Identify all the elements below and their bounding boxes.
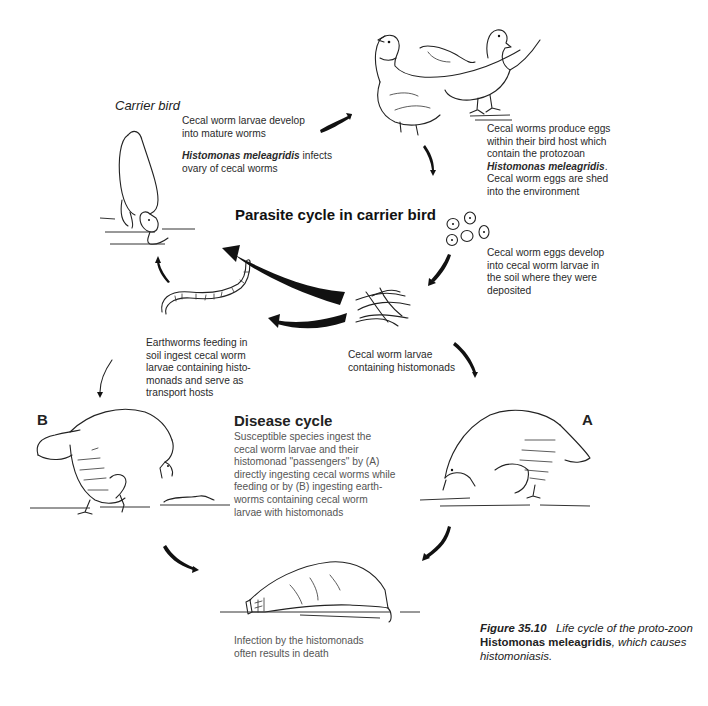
letter-b-label: B [37, 411, 48, 428]
disease-desc-line: worms containing cecal worm [234, 494, 395, 507]
figure-number: Figure 35.10 [480, 622, 546, 634]
earthworms-line: soil ingest cecal worm [146, 350, 251, 363]
earthworms-line: Earthworms feeding in [146, 337, 251, 350]
eggs-develop-line: Cecal worm eggs develop [487, 247, 604, 260]
death-line: often results in death [234, 648, 364, 661]
carrier-hen-illustration [100, 131, 195, 244]
disease-cycle-title: Disease cycle [234, 412, 332, 429]
mature-worms-line: Cecal worm larvae develop [182, 115, 305, 128]
turkey-a-illustration [420, 410, 590, 506]
eggs-develop-line: the soil where they were [487, 272, 604, 285]
death-line: Infection by the histomonads [234, 635, 364, 648]
disease-desc-line: histomonad "passengers" by (A) [234, 456, 395, 469]
infects-ovary-line: ovary of cecal worms [182, 163, 332, 176]
disease-desc-line: cecal worm larvae and their [234, 444, 395, 457]
pheasant-pair-illustration [375, 30, 540, 135]
produce-eggs-line: Cecal worm eggs are shed [487, 173, 610, 186]
disease-desc-line: Susceptible species ingest the [234, 431, 395, 444]
eggs-develop-line: into cecal worm larvae in [487, 260, 604, 273]
eggs-develop-line: deposited [487, 285, 604, 298]
disease-description-text: Susceptible species ingest the cecal wor… [234, 431, 395, 519]
produce-eggs-line: Cecal worms produce eggs [487, 123, 610, 136]
disease-desc-line: directly ingesting cecal worms while [234, 469, 395, 482]
organism-name: Histomonas meleagridis [182, 150, 300, 161]
caption-text: Life cycle of the proto-zoon [556, 622, 693, 634]
eggs-develop-text: Cecal worm eggs develop into cecal worm … [487, 247, 604, 297]
mature-worms-text: Cecal worm larvae develop into mature wo… [182, 115, 305, 140]
caption-organism: Histomonas meleagridis [480, 636, 612, 648]
larvae-histomonads-text: Cecal worm larvae containing histomonads [348, 349, 455, 374]
larvae-histomonads-line: containing histomonads [348, 362, 455, 375]
earthworms-line: transport hosts [146, 387, 251, 400]
earthworm-illustration [162, 260, 250, 314]
parasite-cycle-title: Parasite cycle in carrier bird [235, 206, 436, 223]
carrier-bird-label: Carrier bird [115, 98, 180, 113]
infects-ovary-line: infects [300, 150, 332, 161]
cecal-worm-eggs-illustration [447, 212, 490, 246]
earthworms-text: Earthworms feeding in soil ingest cecal … [146, 337, 251, 400]
mature-worms-line: into mature worms [182, 128, 305, 141]
larvae-histomonads-line: Cecal worm larvae [348, 349, 455, 362]
earthworms-line: monads and serve as [146, 375, 251, 388]
produce-eggs-line: contain the protozoan [487, 148, 610, 161]
letter-a-label: A [582, 411, 593, 428]
disease-desc-line: larvae with histomonads [234, 507, 395, 520]
disease-desc-line: feeding or by (B) ingesting earth- [234, 481, 395, 494]
produce-eggs-text: Cecal worms produce eggs within their bi… [487, 123, 610, 199]
dead-turkey-illustration [220, 562, 420, 622]
figure-caption: Figure 35.10 Life cycle of the proto-zoo… [480, 621, 700, 663]
produce-eggs-line: into the environment [487, 186, 610, 199]
death-text: Infection by the histomonads often resul… [234, 635, 364, 660]
turkey-b-illustration [30, 409, 230, 514]
infects-ovary-text: Histomonas meleagridis infects ovary of … [182, 150, 332, 175]
organism-name: Histomonas meleagridis [487, 161, 605, 172]
produce-eggs-line: within their bird host which [487, 136, 610, 149]
cecal-worm-larvae-illustration [356, 288, 410, 326]
earthworms-line: larvae containing histo- [146, 362, 251, 375]
